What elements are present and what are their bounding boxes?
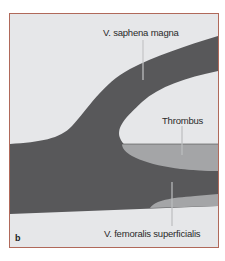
vein-diagram bbox=[10, 14, 218, 247]
panel-letter: b bbox=[15, 233, 21, 243]
diagram-frame: V. saphena magna Thrombus V. femoralis s… bbox=[9, 13, 219, 248]
saphena-label: V. saphena magna bbox=[103, 27, 179, 38]
thrombus-label: Thrombus bbox=[162, 115, 203, 126]
femoralis-label: V. femoralis superficialis bbox=[104, 228, 200, 239]
